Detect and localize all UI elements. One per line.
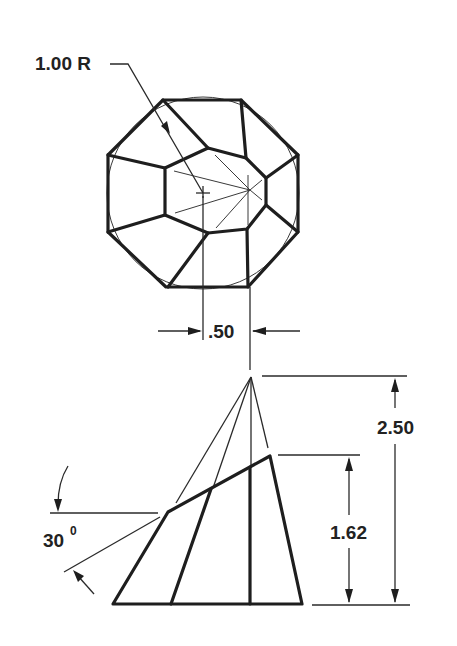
overall-height-label: 2.50: [377, 417, 414, 438]
angle-dimension: [50, 466, 160, 594]
radius-label: 1.00 R: [35, 53, 91, 74]
offset-dimension-label: .50: [208, 321, 234, 342]
technical-drawing: 1.00 R .50: [0, 0, 457, 646]
top-view: 1.00 R .50: [35, 53, 300, 370]
frustum-outline: [113, 456, 302, 604]
frustum-height-label: 1.62: [330, 522, 367, 543]
angle-degree-symbol: 0: [70, 524, 77, 538]
angle-label: 30: [43, 530, 64, 551]
overall-height-dimension: [262, 376, 410, 605]
front-view: 2.50 1.62 30 0: [43, 376, 414, 605]
